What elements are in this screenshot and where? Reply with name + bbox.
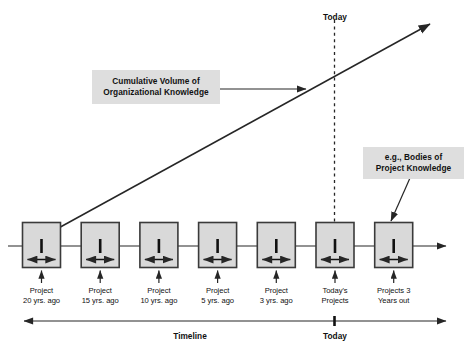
project-label-7-line1: Projects 3	[359, 286, 429, 296]
project-label-7-line2: Years out	[359, 296, 429, 306]
callout-cumulative-volume: Cumulative Volume of Organizational Know…	[92, 70, 220, 104]
project-box-5	[257, 223, 295, 284]
callout-bodies-of-knowledge-line2: Project Knowledge	[376, 163, 452, 175]
callout-cumulative-volume-line2: Organizational Knowledge	[103, 87, 208, 99]
project-box-4	[199, 223, 237, 284]
timeline-axis-caption: Timeline	[145, 331, 235, 341]
cumulative-knowledge-trend-line	[24, 24, 430, 247]
bodies-of-knowledge-leader-arrow	[391, 178, 410, 221]
project-box-3	[140, 223, 178, 284]
callout-bodies-of-knowledge: e.g., Bodies of Project Knowledge	[363, 147, 464, 179]
diagram-canvas: Today Cumulative Volume of Organizationa…	[0, 0, 471, 357]
callout-cumulative-volume-line1: Cumulative Volume of	[112, 76, 200, 88]
today-axis-caption: Today	[290, 331, 380, 341]
project-box-7	[375, 223, 413, 284]
project-box-2	[81, 223, 119, 284]
callout-bodies-of-knowledge-line1: e.g., Bodies of	[385, 152, 442, 164]
project-label-7: Projects 3 Years out	[359, 286, 429, 306]
project-box-1	[23, 223, 61, 284]
today-top-label: Today	[305, 12, 365, 22]
project-box-6	[316, 223, 354, 284]
